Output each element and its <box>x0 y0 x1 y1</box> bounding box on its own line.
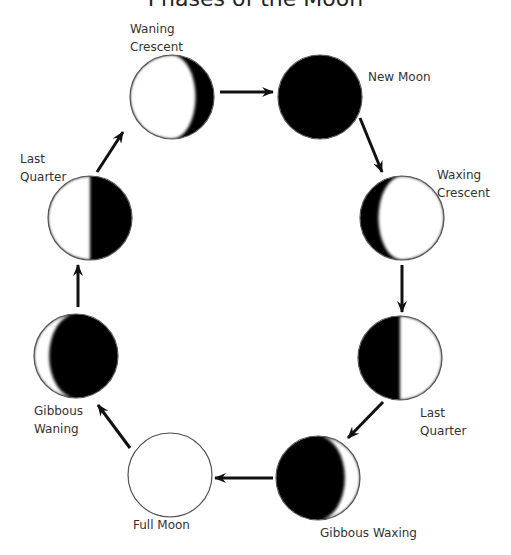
label-line-2: Crescent <box>130 38 183 56</box>
moon-new-moon <box>278 55 362 139</box>
label-line-2: Crescent <box>437 184 490 202</box>
diagram-title: Phases of the Moon <box>0 0 511 11</box>
moon-waxing-crescent <box>360 176 444 260</box>
label-line-1: Last <box>20 150 66 168</box>
moons-group <box>34 55 444 520</box>
label-line-1: Gibbous <box>34 402 83 420</box>
label-last-quarter-right: LastQuarter <box>420 404 466 440</box>
label-line-1: Waxing <box>437 166 490 184</box>
arrow-full_moon-to-gibbous_waning <box>98 405 130 448</box>
moon-phases-diagram: Phases of the Moon WaningCrescentNew Moo… <box>0 0 511 555</box>
label-last-quarter-left: LastQuarter <box>20 150 66 186</box>
label-line-1: Full Moon <box>133 516 190 534</box>
arrow-new_moon-to-waxing_crescent <box>360 118 382 172</box>
label-waning-crescent: WaningCrescent <box>130 20 183 56</box>
moon-gibbous-waxing <box>276 436 360 520</box>
label-gibbous-waxing: Gibbous Waxing <box>320 524 417 542</box>
arrow-last_quarter_left-to-waning_crescent <box>97 132 123 172</box>
label-gibbous-waning: GibbousWaning <box>34 402 83 438</box>
label-line-2: Quarter <box>20 168 66 186</box>
label-waxing-crescent: WaxingCrescent <box>437 166 490 202</box>
arrow-last_quarter_right-to-gibbous_waxing <box>348 402 383 438</box>
label-full-moon: Full Moon <box>133 516 190 534</box>
label-new-moon: New Moon <box>368 68 431 86</box>
label-line-1: New Moon <box>368 68 431 86</box>
moon-full-moon <box>128 433 212 517</box>
moon-last-quarter-right <box>358 316 442 400</box>
label-line-1: Gibbous Waxing <box>320 524 417 542</box>
diagram-canvas <box>0 0 511 555</box>
moon-gibbous-waning <box>34 314 118 398</box>
label-line-2: Quarter <box>420 422 466 440</box>
moon-waning-crescent <box>130 55 214 139</box>
label-line-1: Last <box>420 404 466 422</box>
label-line-1: Waning <box>130 20 183 38</box>
arrows-group <box>78 92 402 478</box>
label-line-2: Waning <box>34 420 83 438</box>
moon-last-quarter-left <box>48 176 132 260</box>
